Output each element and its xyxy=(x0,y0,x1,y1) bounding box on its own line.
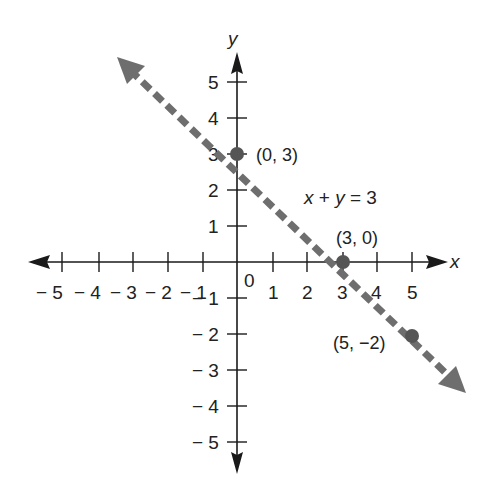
point-3-0 xyxy=(336,255,350,269)
equation-label: x + y = 3 xyxy=(303,187,377,208)
x-tick-label: 2 xyxy=(302,282,313,303)
y-tick-label: − 1 xyxy=(192,288,219,309)
y-tick-label: − 5 xyxy=(192,432,219,453)
coordinate-plane: x − 5 − 4 − 3 − 2 − 1 0 1 2 3 4 5 y xyxy=(0,0,481,492)
y-tick-label: − 3 xyxy=(192,360,219,381)
y-axis: y xyxy=(226,28,247,474)
point-label-0-3: (0, 3) xyxy=(256,145,298,165)
line-arrow-upper-left-icon xyxy=(117,57,145,84)
x-axis: x xyxy=(28,251,461,272)
y-tick-label: 5 xyxy=(208,72,219,93)
x-axis-label: x xyxy=(449,251,461,272)
y-tick-label: 2 xyxy=(208,180,219,201)
point-label-5-neg2: (5, −2) xyxy=(333,333,386,353)
x-tick-label: 4 xyxy=(371,282,382,303)
y-tick-label: − 2 xyxy=(192,324,219,345)
y-axis-label: y xyxy=(226,28,239,49)
x-tick-label: 3 xyxy=(337,282,348,303)
data-points xyxy=(230,147,419,343)
x-axis-left-arrow-icon xyxy=(28,255,50,269)
y-tick-label: 1 xyxy=(208,216,219,237)
x-tick-label: 5 xyxy=(407,282,418,303)
x-tick-label: − 5 xyxy=(36,282,63,303)
x-tick-label: − 3 xyxy=(110,282,137,303)
y-axis-down-arrow-icon xyxy=(231,452,243,474)
y-axis-up-arrow-icon xyxy=(231,52,243,74)
point-label-3-0: (3, 0) xyxy=(336,228,378,248)
origin-label: 0 xyxy=(244,270,255,291)
x-tick-label: − 4 xyxy=(74,282,101,303)
x-axis-right-arrow-icon xyxy=(426,255,448,269)
y-tick-label: − 4 xyxy=(192,396,219,417)
x-tick-label: 1 xyxy=(268,282,279,303)
x-tick-label: − 2 xyxy=(145,282,172,303)
point-0-3 xyxy=(230,147,244,161)
y-tick-label: 4 xyxy=(208,108,219,129)
point-5-neg2 xyxy=(405,329,419,343)
